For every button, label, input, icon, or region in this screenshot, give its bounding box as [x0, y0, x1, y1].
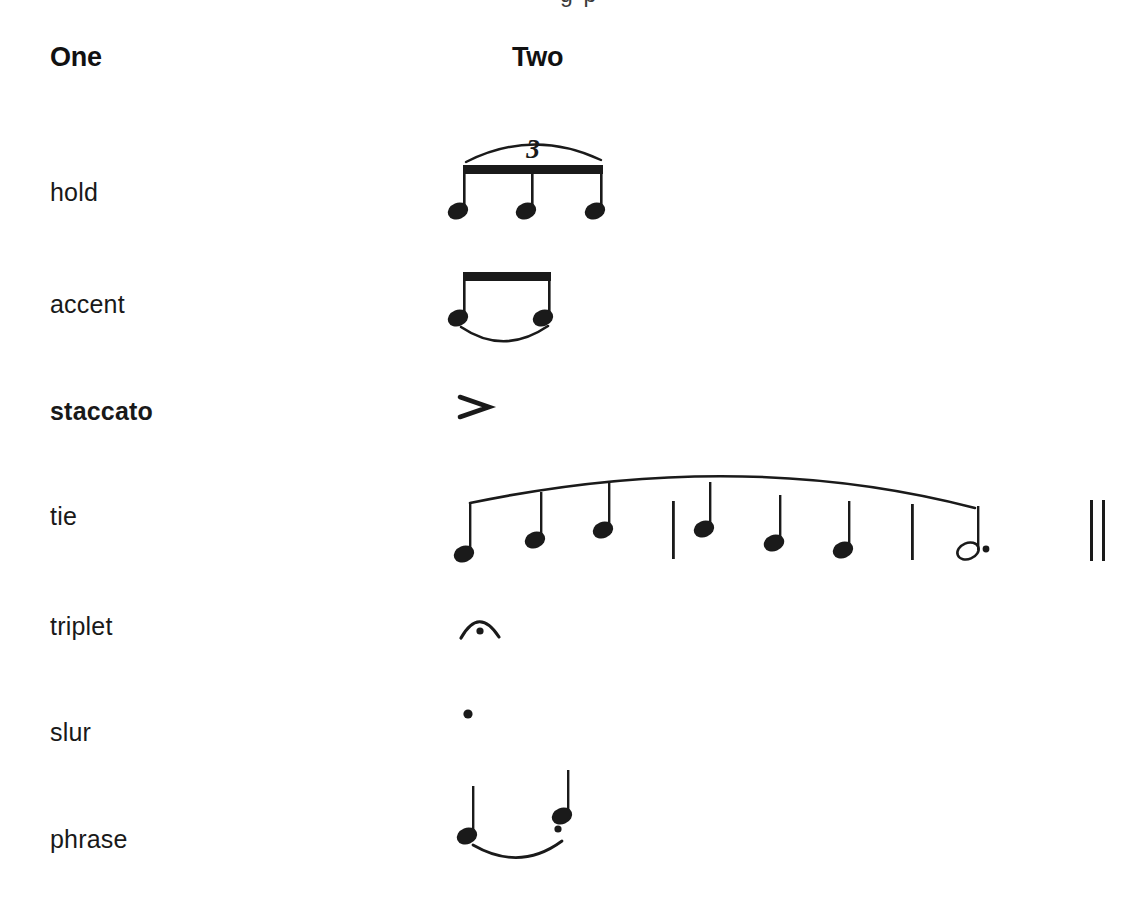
figure-fermata-mark [461, 622, 499, 638]
row-label-slur: slur [50, 718, 91, 747]
figure-staccato-dot [463, 709, 472, 718]
figure-two-beamed-eighths-with-slur [445, 272, 556, 341]
row-label-tie: tie [50, 502, 77, 531]
notation-reference-page: g p One Two hold accent staccato tie tri… [0, 0, 1144, 900]
figure-accent-mark [460, 397, 489, 417]
row-label-hold: hold [50, 178, 98, 207]
row-label-staccato: staccato [50, 397, 153, 426]
row-label-phrase: phrase [50, 825, 128, 854]
column-header-one: One [50, 42, 102, 73]
figure-phrase-line-with-notes [451, 476, 1105, 565]
row-label-triplet: triplet [50, 612, 113, 641]
figure-two-quarter-notes-slurred-staccato [454, 770, 575, 858]
cut-off-text: g p [560, 0, 599, 8]
svg-text:3: 3 [525, 134, 540, 164]
cut-off-text-strip: g p [0, 0, 1144, 16]
row-label-accent: accent [50, 290, 125, 319]
figure-layer: 3 [0, 0, 1144, 900]
column-header-two: Two [512, 42, 563, 73]
figure-triplet-beamed-eighths: 3 [445, 134, 608, 223]
